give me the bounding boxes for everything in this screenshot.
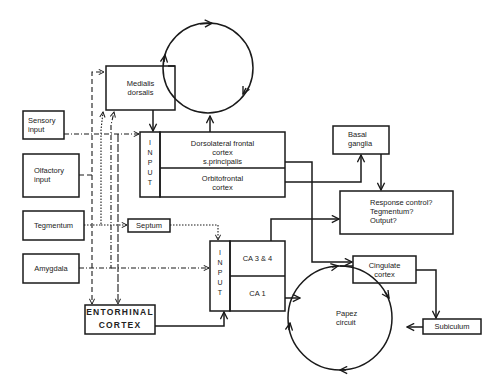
amygdala-label: Amygdala [23, 264, 79, 273]
sensory-input-label: Sensory input [28, 116, 56, 134]
frontal-loop-circle [163, 23, 253, 113]
medialis-dorsalis-label: Medialis dorsalis [106, 79, 175, 97]
entorhinal-label: ENTORHINAL CORTEX [85, 306, 155, 332]
papez-label: Papez circuit [336, 309, 357, 327]
frontal-input-label: INPUT [147, 138, 153, 188]
septum-label: Septum [128, 221, 170, 230]
olfactory-input-label: Olfactory input [34, 166, 64, 184]
ca34-label: CA 3 & 4 [230, 254, 285, 263]
ca1-label: CA 1 [230, 289, 285, 298]
diagram-canvas [0, 0, 486, 391]
response-control-label: Response control? Tegmentum? Output? [370, 198, 433, 225]
basal-ganglia-label: Basal ganglia [348, 130, 372, 148]
dorsolateral-label: Dorsolateral frontal cortex s.principali… [160, 139, 285, 166]
subiculum-label: Subiculum [423, 322, 481, 331]
orbitofrontal-label: Orbitofrontal cortex [160, 174, 285, 192]
cingulate-label: Cingulate cortex [353, 261, 416, 279]
hippocampal-input-label: INPUT [217, 248, 223, 298]
tegmentum-label: Tegmentum [23, 221, 84, 230]
